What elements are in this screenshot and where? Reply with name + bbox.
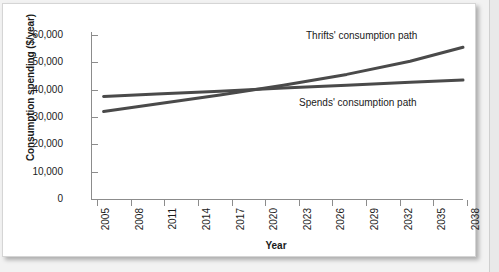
figure-card: Consumption spending ($/year) Year 60,00…: [2, 3, 476, 257]
annotation-thrifts-path: Thrifts' consumption path: [306, 30, 417, 41]
right-margin-rail: [489, 0, 499, 272]
annotation-spends-path: Spends' consumption path: [299, 97, 417, 108]
series-lines: [3, 4, 477, 258]
line-spends-consumption-path: [104, 80, 463, 96]
chart-plot-area: Consumption spending ($/year) Year 60,00…: [3, 4, 477, 258]
